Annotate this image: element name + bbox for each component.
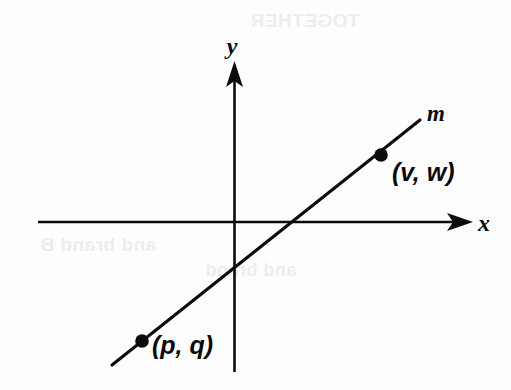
point-dot-vw bbox=[374, 148, 388, 162]
figure-canvas: TOGETHER and brand B and brand x y m (p,… bbox=[0, 0, 511, 390]
point-label-pq: (p, q) bbox=[152, 331, 213, 359]
line-m bbox=[112, 120, 420, 365]
y-axis-label: y bbox=[224, 33, 238, 59]
x-axis-label: x bbox=[477, 210, 490, 236]
point-dot-pq bbox=[135, 334, 149, 348]
line-name-label-m: m bbox=[427, 101, 445, 126]
coordinate-plane-svg: x y m (p, q) (v, w) bbox=[0, 0, 511, 390]
point-label-vw: (v, w) bbox=[392, 158, 455, 186]
